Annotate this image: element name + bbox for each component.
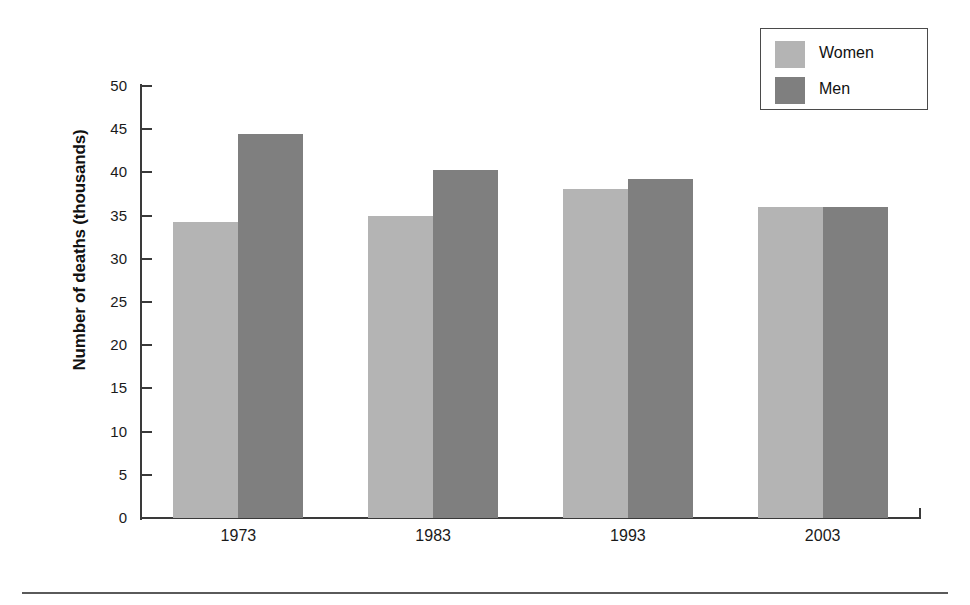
bar-women-1993[interactable] (563, 189, 628, 518)
y-axis-tick-label: 35 (83, 208, 127, 223)
bar-men-1993[interactable] (628, 179, 693, 518)
bar-men-2003[interactable] (823, 207, 888, 518)
bar-women-2003[interactable] (758, 207, 823, 518)
y-axis-tick-label: 30 (83, 251, 127, 266)
legend-swatch-women (775, 41, 805, 68)
y-axis-tick-label: 40 (83, 164, 127, 179)
legend-label-women: Women (819, 44, 874, 62)
chart-legend: WomenMen (760, 28, 928, 110)
x-axis-tick-label-1993: 1993 (568, 527, 688, 545)
y-axis-tick-label: 20 (83, 337, 127, 352)
y-axis-tick-label: 25 (83, 294, 127, 309)
bar-women-1973[interactable] (173, 222, 238, 518)
bar-women-1983[interactable] (368, 216, 433, 518)
bar-men-1973[interactable] (238, 134, 303, 518)
bar-men-1983[interactable] (433, 170, 498, 518)
bar-chart-figure: Number of deaths (thousands) 05101520253… (0, 0, 970, 605)
x-axis-tick-label-2003: 2003 (763, 527, 883, 545)
y-axis-tick-label: 5 (83, 467, 127, 482)
x-axis-tick-label-1983: 1983 (373, 527, 493, 545)
y-axis-tick-label: 50 (83, 78, 127, 93)
y-axis-tick-label: 0 (83, 510, 127, 525)
bottom-divider-rule (22, 592, 948, 594)
x-axis-tick-label-1973: 1973 (178, 527, 298, 545)
legend-swatch-men (775, 77, 805, 104)
y-axis-tick-label: 15 (83, 380, 127, 395)
y-axis-tick-label: 45 (83, 121, 127, 136)
legend-label-men: Men (819, 80, 850, 98)
plot-area (141, 86, 920, 518)
y-axis-tick-label: 10 (83, 424, 127, 439)
